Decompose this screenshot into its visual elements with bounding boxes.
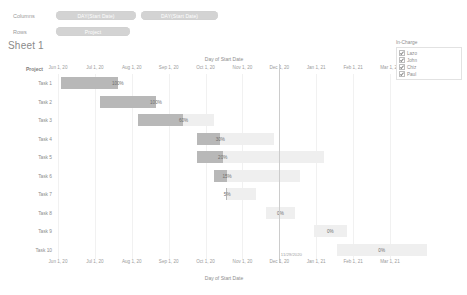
checkbox-icon[interactable] bbox=[399, 64, 405, 70]
row-label-task-4: Task 4 bbox=[38, 136, 52, 141]
gridline bbox=[390, 74, 391, 259]
row-label-task-8: Task 8 bbox=[38, 210, 52, 215]
grip-icon bbox=[8, 13, 11, 18]
bar-value-label: 15% bbox=[222, 173, 231, 178]
row-axis-labels: Task 1Task 2Task 3Task 4Task 5Task 6Task… bbox=[0, 74, 56, 259]
legend-item-chiz[interactable]: Chiz bbox=[399, 64, 459, 71]
gridline bbox=[58, 74, 59, 259]
columns-label-text: Columns bbox=[13, 13, 35, 19]
axis-title-top: Day of Start Date bbox=[58, 56, 390, 64]
row-label-task-9: Task 9 bbox=[38, 229, 52, 234]
x-tick-label: Jan 1, 21 bbox=[307, 65, 326, 70]
tableau-worksheet: Columns DAY(Start Date) DAY(Start Date) … bbox=[0, 0, 467, 295]
pill-columns-0[interactable]: DAY(Start Date) bbox=[56, 11, 136, 20]
pill-rows-0[interactable]: Project bbox=[56, 27, 130, 36]
bar-value-label: 100% bbox=[112, 81, 124, 86]
x-tick-label: Nov 1, 20 bbox=[233, 259, 253, 264]
axis-title-bottom: Day of Start Date bbox=[58, 275, 390, 283]
bar-value-label: 20% bbox=[218, 155, 227, 160]
x-tick-label: Sep 1, 20 bbox=[159, 65, 179, 70]
bar-value-label: 100% bbox=[150, 99, 162, 104]
legend-item-paul[interactable]: Paul bbox=[399, 71, 459, 78]
bar-fill[interactable] bbox=[61, 77, 117, 89]
row-label-task-3: Task 3 bbox=[38, 118, 52, 123]
x-tick-label: Dec 1, 20 bbox=[269, 259, 289, 264]
gridline bbox=[242, 74, 243, 259]
legend-title: In-Charge bbox=[396, 40, 462, 45]
x-axis-ticks-top: Jun 1, 20Jul 1, 20Aug 1, 20Sep 1, 20Oct … bbox=[58, 65, 390, 73]
columns-shelf-label: Columns bbox=[0, 13, 56, 19]
page-title: Sheet 1 bbox=[8, 40, 44, 51]
rows-label-text: Rows bbox=[13, 29, 27, 35]
gridline bbox=[169, 74, 170, 259]
row-header-title: Project bbox=[26, 66, 43, 72]
legend-item-lazo[interactable]: Lazo bbox=[399, 50, 459, 57]
checkbox-icon[interactable] bbox=[399, 50, 405, 56]
row-label-task-7: Task 7 bbox=[38, 192, 52, 197]
bar-value-label: 30% bbox=[216, 136, 225, 141]
rows-shelf[interactable]: Rows Project bbox=[0, 25, 467, 38]
legend-item-label: Lazo bbox=[407, 51, 417, 56]
reference-line[interactable] bbox=[279, 64, 280, 263]
checkbox-icon[interactable] bbox=[399, 71, 405, 77]
gridline bbox=[95, 74, 96, 259]
viz-container: Day of Start Date Project Jun 1, 20Jul 1… bbox=[0, 56, 390, 281]
gridline bbox=[206, 74, 207, 259]
x-tick-label: Mar 1, 21 bbox=[380, 259, 399, 264]
x-tick-label: Jun 1, 20 bbox=[49, 259, 68, 264]
row-label-task-1: Task 1 bbox=[38, 81, 52, 86]
x-tick-label: Feb 1, 21 bbox=[343, 259, 362, 264]
pill-columns-1[interactable]: DAY(Start Date) bbox=[141, 11, 218, 20]
row-label-task-6: Task 6 bbox=[38, 173, 52, 178]
grip-icon bbox=[8, 29, 11, 34]
legend-item-label: Chiz bbox=[407, 65, 416, 70]
x-tick-label: Aug 1, 20 bbox=[122, 65, 142, 70]
columns-shelf[interactable]: Columns DAY(Start Date) DAY(Start Date) bbox=[0, 9, 467, 22]
reference-line-label: 11/29/2020 bbox=[281, 252, 302, 257]
x-tick-label: Aug 1, 20 bbox=[122, 259, 142, 264]
legend-items: LazoJohnChizPaul bbox=[396, 47, 462, 80]
row-label-task-10: Task 10 bbox=[35, 247, 52, 252]
x-tick-label: Jul 1, 20 bbox=[86, 65, 103, 70]
plot-area[interactable]: 100%100%60%30%20%15%5%0%0%0%11/29/2020 bbox=[58, 74, 390, 259]
bar-value-label: 5% bbox=[224, 192, 231, 197]
bar-value-label: 0% bbox=[378, 247, 385, 252]
x-tick-label: Jul 1, 20 bbox=[86, 259, 103, 264]
rows-shelf-label: Rows bbox=[0, 29, 56, 35]
bar-value-label: 0% bbox=[327, 229, 334, 234]
checkbox-icon[interactable] bbox=[399, 57, 405, 63]
x-tick-label: Nov 1, 20 bbox=[233, 65, 253, 70]
x-tick-label: Jun 1, 20 bbox=[49, 65, 68, 70]
bar-fill[interactable] bbox=[100, 96, 156, 108]
x-axis-ticks-bottom: Jun 1, 20Jul 1, 20Aug 1, 20Sep 1, 20Oct … bbox=[58, 259, 390, 267]
x-tick-label: Sep 1, 20 bbox=[159, 259, 179, 264]
bar-value-label: 0% bbox=[277, 210, 284, 215]
row-label-task-2: Task 2 bbox=[38, 99, 52, 104]
x-tick-label: Oct 1, 20 bbox=[196, 259, 215, 264]
legend-item-label: John bbox=[407, 58, 417, 63]
bar-value-label: 60% bbox=[179, 118, 188, 123]
gridline bbox=[353, 74, 354, 259]
bar-fill[interactable] bbox=[138, 114, 184, 126]
legend-item-john[interactable]: John bbox=[399, 57, 459, 64]
x-tick-label: Feb 1, 21 bbox=[343, 65, 362, 70]
legend-item-label: Paul bbox=[407, 72, 416, 77]
legend-in-charge: In-Charge LazoJohnChizPaul bbox=[396, 40, 462, 80]
row-label-task-5: Task 5 bbox=[38, 155, 52, 160]
x-tick-label: Oct 1, 20 bbox=[196, 65, 215, 70]
x-tick-label: Jan 1, 21 bbox=[307, 259, 326, 264]
